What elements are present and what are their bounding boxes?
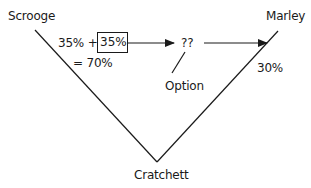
- cratchett-label: Cratchett: [134, 168, 189, 182]
- marley-label: Marley: [266, 9, 305, 23]
- unknown-node-label: ??: [181, 36, 193, 50]
- boxed-share: 35%: [97, 32, 128, 53]
- marley-share-label: 30%: [257, 61, 283, 75]
- scrooge-total-label: = 70%: [73, 56, 113, 70]
- option-pointer-line: [172, 52, 185, 73]
- diagram-lines: [0, 0, 311, 188]
- option-label: Option: [165, 79, 204, 93]
- marley-cratchett-line: [157, 31, 278, 162]
- scrooge-share-prefix: 35% +: [58, 36, 98, 50]
- scrooge-label: Scrooge: [8, 9, 55, 23]
